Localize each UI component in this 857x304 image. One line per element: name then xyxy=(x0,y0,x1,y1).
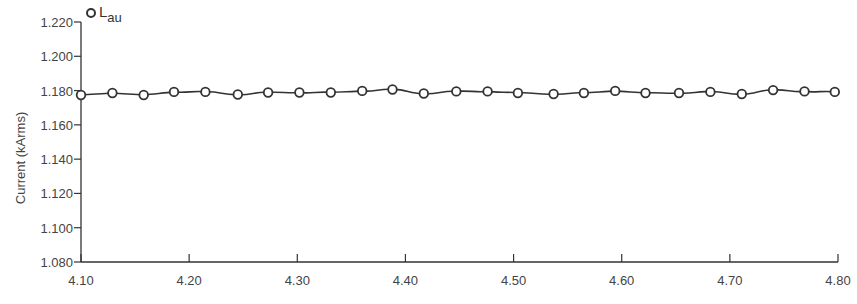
data-point-marker xyxy=(611,87,620,96)
y-tick-label: 1.140 xyxy=(40,152,73,167)
x-axis: 4.104.204.304.404.504.604.704.80 xyxy=(68,254,850,288)
x-tick-label: 4.70 xyxy=(717,273,742,288)
data-point-marker xyxy=(483,87,492,96)
data-point-marker xyxy=(452,87,461,96)
data-point-marker xyxy=(358,87,367,96)
data-point-marker xyxy=(295,88,304,97)
x-tick-label: 4.10 xyxy=(68,273,93,288)
data-point-marker xyxy=(108,89,117,98)
x-tick-label: 4.30 xyxy=(285,273,310,288)
data-point-marker xyxy=(738,90,747,99)
legend-marker-icon xyxy=(87,9,95,17)
legend-label: Lau xyxy=(99,3,122,25)
x-tick-label: 4.40 xyxy=(393,273,418,288)
data-point-marker xyxy=(580,89,589,98)
x-tick-label: 4.20 xyxy=(176,273,201,288)
data-point-marker xyxy=(675,89,684,98)
data-point-marker xyxy=(234,90,243,99)
data-point-marker xyxy=(769,86,778,95)
data-point-marker xyxy=(264,88,273,97)
data-point-marker xyxy=(800,87,809,96)
data-point-marker xyxy=(77,91,86,100)
y-tick-label: 1.100 xyxy=(40,221,73,236)
y-tick-label: 1.220 xyxy=(40,15,73,30)
data-point-marker xyxy=(514,89,523,98)
data-point-marker xyxy=(831,88,840,97)
data-point-marker xyxy=(139,91,148,100)
data-point-marker xyxy=(201,88,210,97)
data-point-marker xyxy=(706,88,715,97)
legend: Lau xyxy=(87,3,122,25)
data-point-marker xyxy=(170,88,179,97)
x-tick-label: 4.50 xyxy=(501,273,526,288)
y-axis-title: Current (kArms) xyxy=(13,112,28,204)
data-point-marker xyxy=(641,89,650,98)
data-point-marker xyxy=(420,89,429,98)
data-point-marker xyxy=(388,85,397,94)
x-tick-label: 4.60 xyxy=(609,273,634,288)
chart: 1.2201.2001.1801.1601.1401.1201.1001.080… xyxy=(0,0,857,304)
y-tick-label: 1.180 xyxy=(40,84,73,99)
y-axis: 1.2201.2001.1801.1601.1401.1201.1001.080 xyxy=(40,15,81,270)
y-tick-label: 1.120 xyxy=(40,186,73,201)
y-tick-label: 1.160 xyxy=(40,118,73,133)
y-tick-label: 1.080 xyxy=(40,255,73,270)
data-point-marker xyxy=(327,88,336,97)
y-tick-label: 1.200 xyxy=(40,49,73,64)
x-tick-label: 4.80 xyxy=(825,273,850,288)
data-point-marker xyxy=(549,90,558,99)
